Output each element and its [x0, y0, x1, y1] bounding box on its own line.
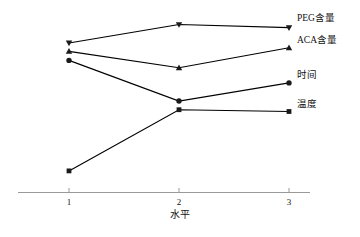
series-marker	[286, 44, 292, 50]
series-2	[66, 44, 292, 70]
series-marker	[287, 109, 292, 114]
series-4	[67, 107, 292, 173]
series-marker	[66, 41, 72, 47]
x-tick-label-3: 3	[279, 197, 299, 207]
series-1	[66, 22, 292, 46]
series-label-time: 时间	[297, 70, 317, 81]
series-marker	[67, 169, 72, 174]
series-marker	[177, 107, 182, 112]
series-marker	[286, 80, 291, 85]
series-label-peg: PEG含量	[297, 13, 335, 24]
series-marker	[176, 98, 181, 103]
series-label-temperature: 温度	[297, 99, 317, 110]
series-layer	[66, 22, 292, 173]
series-line	[69, 110, 289, 171]
series-label-aca: ACA含量	[297, 35, 337, 46]
series-marker	[66, 48, 72, 54]
series-marker	[66, 58, 71, 63]
x-axis-title: 水平	[150, 209, 210, 220]
x-tick-label-2: 2	[169, 197, 189, 207]
x-axis-group	[18, 188, 310, 193]
main-effects-figure: 1 2 3 水平 PEG含量 ACA含量 时间 温度	[0, 0, 360, 237]
x-tick-label-1: 1	[59, 197, 79, 207]
